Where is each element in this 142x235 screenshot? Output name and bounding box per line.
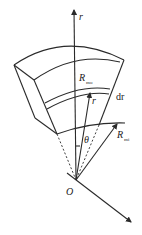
shell-sector-diagram: r R mo dr r θ R mi O — [0, 0, 142, 235]
outer-radius-label: R — [78, 72, 85, 83]
dr-layer-upper-arc — [45, 88, 110, 103]
dr-layer-lower-arc — [47, 93, 109, 109]
r-axis-label: r — [79, 11, 83, 22]
inner-radius-arrow — [76, 124, 117, 180]
inner-bottom-arc — [57, 123, 125, 134]
dashed-left-radial — [57, 134, 76, 180]
r-axis-line — [74, 10, 76, 180]
ray-r-label: r — [92, 95, 96, 106]
origin-label: O — [66, 186, 73, 197]
inner-radius-sub: mi — [124, 137, 130, 142]
dr-label: dr — [116, 91, 125, 102]
inner-radius-label: R — [116, 129, 123, 140]
front-top-arc — [34, 59, 120, 80]
lower-axis-line — [67, 173, 131, 222]
theta-label: θ — [84, 134, 89, 145]
outer-radius-sub: mo — [86, 80, 93, 85]
